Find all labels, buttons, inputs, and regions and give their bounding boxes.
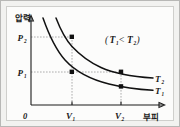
curve-label-t1-sub: 1: [161, 91, 164, 97]
chart-canvas: 압력 부피 0 P 2 P 1 V 1 V 2 T 2 T 1: [1, 1, 180, 127]
x-tick-v2-sub: 2: [121, 116, 125, 122]
data-point-v1-p1: [70, 70, 74, 74]
data-point-v2-lower: [119, 84, 123, 88]
y-tick-p1-base: P: [18, 68, 24, 78]
data-point-v2-p1: [119, 70, 123, 74]
guide-lines: [31, 37, 121, 105]
x-tick-label-v1: V 1: [66, 111, 76, 122]
annotation-open-paren: (: [105, 35, 109, 46]
origin-label: 0: [23, 111, 28, 121]
x-tick-label-v2: V 2: [115, 111, 125, 122]
y-tick-p2-sub: 2: [23, 38, 27, 44]
temperature-relation-annotation: ( T 1 < T 2 ): [105, 35, 140, 46]
data-point-v1-p2: [70, 35, 74, 39]
axes: [29, 15, 165, 107]
annotation-relation: <: [119, 35, 124, 45]
pv-isotherm-figure: 압력 부피 0 P 2 P 1 V 1 V 2 T 2 T 1: [0, 0, 180, 127]
curve-label-t2: T 2: [155, 74, 164, 85]
curve-label-t1-base: T: [155, 86, 161, 96]
x-axis-label: 부피: [143, 112, 159, 122]
y-tick-p2-base: P: [18, 33, 24, 43]
curve-label-t2-sub: 2: [160, 79, 164, 85]
y-tick-p1-sub: 1: [24, 73, 27, 79]
y-axis-label: 압력: [15, 13, 31, 23]
annotation-close-paren: ): [136, 35, 140, 46]
x-tick-v1-sub: 1: [73, 116, 76, 122]
y-tick-label-p2: P 2: [18, 33, 28, 44]
curve-label-t1: T 1: [155, 86, 164, 97]
isotherm-curve-t2: [56, 18, 153, 78]
curve-label-t2-base: T: [155, 74, 161, 84]
y-tick-label-p1: P 1: [18, 68, 28, 79]
isotherm-curve-t1: [43, 18, 153, 90]
